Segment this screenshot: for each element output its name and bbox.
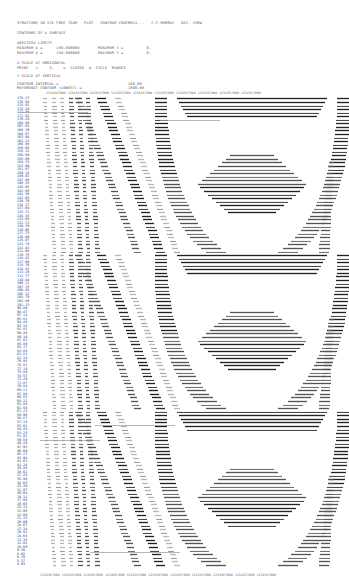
scan-artifact	[18, 112, 88, 113]
contour-band	[336, 436, 349, 439]
contour-band	[337, 268, 349, 271]
contour-band	[335, 129, 349, 132]
contour-band	[337, 265, 349, 268]
contour-band	[335, 290, 349, 293]
contour-band	[337, 418, 349, 421]
contour-band	[337, 411, 349, 414]
contour-band	[335, 446, 349, 449]
x-scale-label: X-SCALE AT HORIZONTAL	[17, 61, 66, 65]
contour-band	[87, 564, 91, 567]
contour-band	[334, 453, 348, 456]
contour-band	[95, 564, 100, 567]
maximum-values: MAXIMUM X = 150.000000 MAXIMUM Y = 0.	[17, 51, 151, 55]
contour-band	[156, 564, 165, 567]
contour-band	[336, 439, 349, 442]
contour-band	[337, 429, 349, 432]
contour-band	[333, 457, 347, 460]
contour-plot: 178.27176.94175.61174.28172.95171.62170.…	[17, 97, 335, 567]
contour-band	[334, 297, 348, 300]
contour-band	[337, 112, 349, 115]
plot-subtitle: CONTOURS OF A SURFACE	[17, 31, 66, 35]
contour-band	[336, 122, 349, 125]
contour-band	[174, 564, 180, 567]
contour-band	[61, 564, 66, 567]
contour-band	[319, 564, 330, 567]
contour-band	[337, 105, 349, 108]
contour-band	[336, 126, 349, 129]
contour-band	[334, 293, 348, 296]
contour-band	[333, 144, 347, 147]
contour-band	[337, 272, 349, 275]
contour-band	[337, 101, 349, 104]
contour-band	[335, 286, 349, 289]
plot-title: STRUCTURE IN ICE FREE TEAM - PLOT - CONT…	[17, 21, 202, 25]
contour-band	[337, 421, 349, 424]
contour-band	[335, 133, 349, 136]
minimum-values: MINIMUM X = 100.000000 MINIMUM Y = 0.	[17, 46, 151, 50]
contour-band	[334, 450, 348, 453]
contour-band	[336, 119, 349, 122]
contour-band	[134, 564, 141, 567]
contour-band	[336, 279, 349, 282]
contour-band	[337, 97, 349, 100]
plot-row: 4.04	[17, 563, 335, 567]
contour-band	[337, 254, 349, 257]
abscissa-limits-heading: ABSCISSA LIMITS	[17, 41, 52, 45]
scan-artifact	[90, 552, 180, 553]
row-label: 4.04	[17, 563, 25, 567]
column-ruler-top: 1234567890 1234567890 1234567890 1234567…	[46, 91, 261, 95]
y-scale-label: Y-SCALE AT VERTICAL	[17, 74, 61, 78]
scan-artifact	[40, 440, 100, 441]
contour-band	[337, 108, 349, 111]
contour-band	[206, 564, 226, 567]
column-ruler-bottom: 1234567890 1234567890 1234567890 1234567…	[40, 573, 276, 577]
scan-artifact	[95, 425, 175, 426]
contour-band	[337, 414, 349, 417]
reference-contour: REFERENCE CONTOUR (LOWEST) = -1000.00	[17, 86, 144, 90]
x-scale-detail: PRINT 1. 5. = CLOSED 4 CYCLE RANGES	[17, 66, 126, 70]
contour-band	[78, 564, 83, 567]
contour-band	[336, 275, 349, 278]
contour-band	[337, 115, 349, 118]
contour-band	[334, 137, 348, 140]
contour-band	[337, 261, 349, 264]
contour-band	[337, 425, 349, 428]
contour-band	[70, 564, 74, 567]
contour-band	[333, 300, 347, 303]
contour-band	[337, 258, 349, 261]
contour-band	[53, 564, 57, 567]
contour-band	[335, 443, 349, 446]
contour-band	[334, 140, 348, 143]
scan-artifact	[160, 120, 220, 121]
contour-band	[278, 564, 298, 567]
contour-band	[336, 432, 349, 435]
contour-band	[336, 283, 349, 286]
